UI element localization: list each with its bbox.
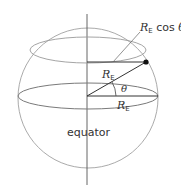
latitude-circle [30, 37, 146, 63]
label-slanted-radius: RE [101, 68, 115, 82]
sphere-diagram: RE cos θ RE θ RE equator [0, 0, 181, 193]
slanted-radius-line [87, 62, 146, 96]
label-equator-radius: RE [116, 99, 130, 113]
surface-point [143, 59, 148, 64]
label-re-cos-theta: RE cos θ [139, 21, 181, 35]
label-equator: equator [67, 126, 111, 139]
label-theta: θ [121, 83, 127, 94]
sphere-outline [18, 28, 158, 168]
